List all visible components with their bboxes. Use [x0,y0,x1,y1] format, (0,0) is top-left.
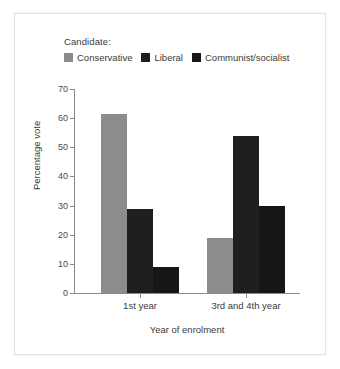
y-tick-mark [70,89,74,90]
y-tick-mark [70,206,74,207]
bar [153,267,179,293]
y-tick-mark [70,235,74,236]
figure-frame: Candidate: ConservativeLiberalCommunist/… [0,0,340,369]
legend-swatch-icon [64,53,73,62]
chart-legend: Candidate: ConservativeLiberalCommunist/… [64,36,314,63]
y-tick-label: 40 [58,171,68,181]
y-axis-line [74,89,75,294]
legend-entry-label: Conservative [77,52,132,63]
x-axis-group-label: 1st year [123,300,157,311]
legend-entries: ConservativeLiberalCommunist/socialist [64,52,314,63]
x-tick-mark [246,294,247,298]
y-tick-mark [70,176,74,177]
bar [127,209,153,294]
y-tick-label: 70 [58,84,68,94]
y-axis-title: Percentage vote [31,121,42,190]
y-tick-label: 20 [58,230,68,240]
bar [259,206,285,293]
y-tick-label: 10 [58,259,68,269]
y-tick-label: 50 [58,142,68,152]
y-tick-mark [70,147,74,148]
bar [233,136,259,293]
y-tick-label: 60 [58,113,68,123]
x-axis-title: Year of enrolment [74,324,300,335]
legend-entry-label: Communist/socialist [205,52,289,63]
y-tick-mark [70,293,74,294]
legend-swatch-icon [141,53,150,62]
plot-area: 010203040506070 1st year3rd and 4th year [74,89,300,294]
legend-entry: Communist/socialist [192,52,289,63]
x-axis-line [74,293,300,294]
bar [207,238,233,293]
x-tick-mark [140,294,141,298]
legend-entry: Liberal [141,52,183,63]
legend-entry-label: Liberal [154,52,183,63]
y-tick-mark [70,118,74,119]
y-tick-label: 30 [58,201,68,211]
y-tick-mark [70,264,74,265]
legend-title: Candidate: [64,36,314,47]
y-tick-label: 0 [63,288,68,298]
legend-entry: Conservative [64,52,132,63]
bar [101,114,127,293]
legend-swatch-icon [192,53,201,62]
x-axis-group-label: 3rd and 4th year [211,300,280,311]
